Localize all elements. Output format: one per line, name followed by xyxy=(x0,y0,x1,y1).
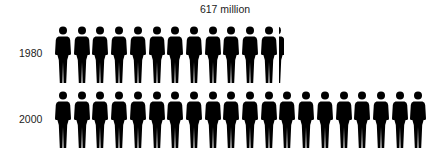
person-icon xyxy=(130,91,146,149)
person-icon xyxy=(55,91,71,149)
person-icon xyxy=(74,91,90,149)
person-icon xyxy=(410,91,426,149)
person-icon xyxy=(392,91,408,149)
person-icon xyxy=(149,91,165,149)
person-icon xyxy=(205,91,221,149)
person-icon xyxy=(242,91,258,149)
row-label-1980: 1980 xyxy=(19,47,42,59)
person-icon xyxy=(111,91,127,149)
person-icon xyxy=(373,91,389,149)
person-icon xyxy=(92,91,108,149)
person-icon xyxy=(74,26,90,84)
chart-title: 617 million xyxy=(0,3,444,15)
person-icon xyxy=(279,91,295,149)
partial-person-icon xyxy=(279,26,284,84)
person-icon xyxy=(130,26,146,84)
person-icon xyxy=(336,91,352,149)
person-icon xyxy=(92,26,108,84)
row-label-2000: 2000 xyxy=(19,113,42,125)
person-icon xyxy=(205,26,221,84)
person-icon xyxy=(186,91,202,149)
person-icon xyxy=(261,26,277,84)
person-icon xyxy=(223,26,239,84)
person-icon xyxy=(167,91,183,149)
person-icon xyxy=(223,91,239,149)
person-icon xyxy=(317,91,333,149)
person-icon xyxy=(261,91,277,149)
person-icon xyxy=(186,26,202,84)
person-icon xyxy=(111,26,127,84)
person-icon xyxy=(167,26,183,84)
person-icon xyxy=(55,26,71,84)
person-icon xyxy=(298,91,314,149)
person-icon xyxy=(242,26,258,84)
person-icon xyxy=(149,26,165,84)
person-icon xyxy=(354,91,370,149)
